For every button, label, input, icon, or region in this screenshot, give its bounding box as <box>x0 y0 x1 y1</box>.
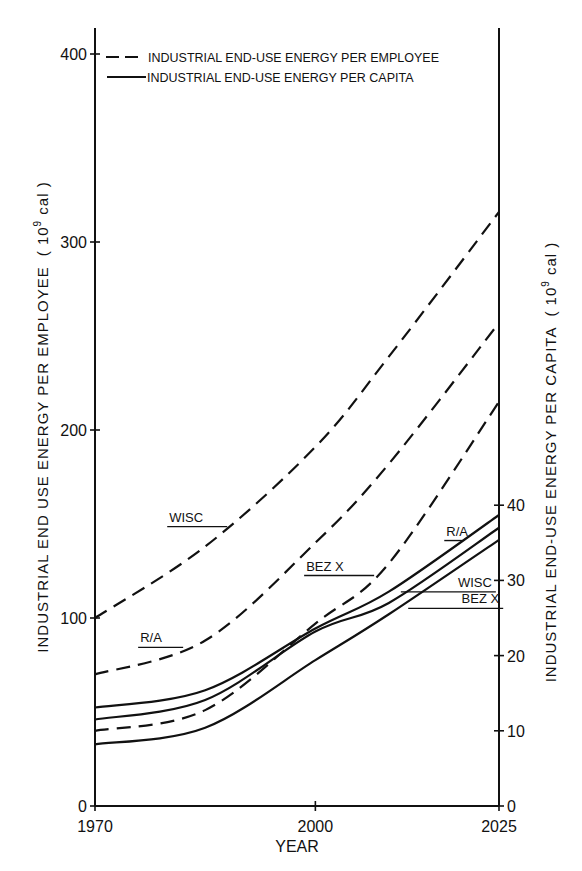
legend-label-per-capita: INDUSTRIAL END-USE ENERGY PER CAPITA <box>147 71 414 85</box>
left-y-axis-label-text: INDUSTRIAL END USE ENERGY PER EMPLOYEE <box>34 266 51 652</box>
left-y-axis-units-prefix: ( 10 <box>34 226 51 256</box>
left-y-tick-label: 200 <box>60 422 87 439</box>
x-tick-label: 2000 <box>298 818 334 835</box>
x-axis-label: YEAR <box>275 838 319 855</box>
left-y-axis-units-suffix: cal ) <box>34 181 51 220</box>
right-y-axis-label: INDUSTRIAL END-USE ENERGY PER CAPITA( 10… <box>540 242 559 683</box>
legend-label-per-employee: INDUSTRIAL END-USE ENERGY PER EMPLOYEE <box>148 51 439 65</box>
left-y-tick-label: 100 <box>60 610 87 627</box>
left-y-axis-label: INDUSTRIAL END USE ENERGY PER EMPLOYEE( … <box>32 181 51 652</box>
right-y-tick-label: 30 <box>507 572 525 589</box>
annotation-label: BEZ X <box>306 559 344 574</box>
left-y-tick-label: 300 <box>60 234 87 251</box>
annotation-label: R/A <box>140 630 162 645</box>
series-line-r-a-per-capita <box>95 515 499 708</box>
right-y-tick-label: 0 <box>507 798 516 815</box>
left-y-tick-label: 0 <box>78 798 87 815</box>
right-y-axis-label-text: INDUSTRIAL END-USE ENERGY PER CAPITA <box>542 327 559 683</box>
right-y-tick-label: 20 <box>507 648 525 665</box>
annotation-label: WISC <box>458 575 492 590</box>
series-line-r-a-per-employee <box>95 323 499 675</box>
curves <box>95 212 499 744</box>
annotation-label: WISC <box>169 510 203 525</box>
series-line-wisc-per-capita <box>95 528 499 720</box>
right-y-tick-label: 40 <box>507 497 525 514</box>
right-y-axis-units-suffix: cal ) <box>542 242 559 281</box>
right-y-axis-units-prefix: ( 10 <box>542 287 559 317</box>
left-y-tick-label: 400 <box>60 46 87 63</box>
series-line-bez-x-per-employee <box>95 402 499 731</box>
energy-chart: 0100200300400010203040197020002025 WISCR… <box>0 0 582 871</box>
legend: INDUSTRIAL END-USE ENERGY PER EMPLOYEE I… <box>106 51 439 85</box>
right-y-tick-label: 10 <box>507 723 525 740</box>
x-tick-label: 2025 <box>481 818 517 835</box>
annotation-label: BEZ X <box>462 591 500 606</box>
annotation-label: R/A <box>446 524 468 539</box>
x-tick-label: 1970 <box>77 818 113 835</box>
